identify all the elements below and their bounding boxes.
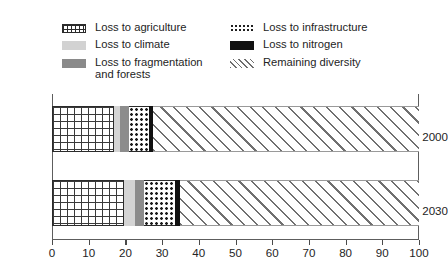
bar-segment-infrastructure xyxy=(144,180,175,226)
x-axis-tick-label: 80 xyxy=(339,246,352,259)
bar-row xyxy=(52,180,419,226)
x-axis-tick-label: 60 xyxy=(266,246,279,259)
bar-segment-agriculture xyxy=(52,180,124,226)
bar-segment-fragmentation xyxy=(120,106,129,152)
hatch-icon xyxy=(230,59,254,68)
x-axis-tick-label: 10 xyxy=(82,246,95,259)
bar-segment-climate xyxy=(124,180,135,226)
legend-item[interactable]: Loss to fragmentation and forests xyxy=(62,56,230,82)
bar-segment-fragmentation xyxy=(135,180,144,226)
x-axis-tick-label: 90 xyxy=(376,246,389,259)
x-axis-tick-label: 20 xyxy=(119,246,132,259)
dots-icon xyxy=(230,24,254,33)
y-axis-label-2000: 2000 xyxy=(404,130,448,143)
grid-icon xyxy=(62,24,86,33)
legend-item[interactable]: Loss to agriculture xyxy=(62,21,230,34)
legend: Loss to agricultureLoss to infrastructur… xyxy=(52,12,419,94)
dark-gray-icon xyxy=(62,59,86,68)
x-axis-tick xyxy=(236,240,237,245)
x-axis-tick xyxy=(272,240,273,245)
legend-item-label: Remaining diversity xyxy=(263,56,361,69)
x-axis-tick xyxy=(309,240,310,245)
legend-item-label: Loss to fragmentation and forests xyxy=(95,56,203,82)
x-axis-tick-label: 100 xyxy=(409,246,428,259)
bar-segment-infrastructure xyxy=(129,106,149,152)
x-axis-tick-label: 50 xyxy=(229,246,242,259)
legend-item[interactable]: Loss to infrastructure xyxy=(230,21,414,34)
x-axis-tick xyxy=(89,240,90,245)
light-gray-icon xyxy=(62,41,86,50)
stacked-bar-chart: Loss to agricultureLoss to infrastructur… xyxy=(0,0,448,277)
bar-segment-remaining xyxy=(153,106,419,152)
x-axis-tick-label: 0 xyxy=(49,246,55,259)
x-axis-tick xyxy=(52,240,53,245)
legend-item-label: Loss to climate xyxy=(95,38,170,51)
x-axis-tick-label: 30 xyxy=(156,246,169,259)
black-icon xyxy=(230,41,254,50)
bar-row xyxy=(52,106,419,152)
x-axis-tick xyxy=(162,240,163,245)
legend-item[interactable]: Loss to nitrogen xyxy=(230,38,414,51)
legend-item-label: Loss to agriculture xyxy=(95,21,186,34)
legend-item[interactable]: Remaining diversity xyxy=(230,56,414,82)
y-axis-label-2030: 2030 xyxy=(404,204,448,217)
x-axis: 0102030405060708090100 xyxy=(52,240,419,248)
legend-item-label: Loss to infrastructure xyxy=(263,21,367,34)
x-axis-tick xyxy=(199,240,200,245)
x-axis-tick xyxy=(382,240,383,245)
x-axis-tick xyxy=(125,240,126,245)
x-axis-tick-label: 70 xyxy=(302,246,315,259)
bar-segment-agriculture xyxy=(52,106,114,152)
bar-segment-remaining xyxy=(180,180,419,226)
x-axis-tick-label: 40 xyxy=(192,246,205,259)
legend-item[interactable]: Loss to climate xyxy=(62,38,230,51)
x-axis-tick xyxy=(419,240,420,245)
legend-item-label: Loss to nitrogen xyxy=(263,38,343,51)
x-axis-tick xyxy=(346,240,347,245)
